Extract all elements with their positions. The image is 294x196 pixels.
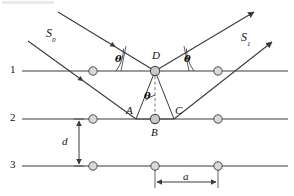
diffracted-ray-upper: [155, 12, 254, 71]
incident-ray-upper: [58, 12, 155, 71]
point-a-label: A: [126, 105, 133, 116]
angle-interior-label: θ: [144, 91, 151, 101]
plane-2-label: 2: [10, 112, 16, 123]
incident-beam-label: S0: [46, 27, 56, 42]
point-d-label: D: [152, 50, 160, 61]
diffracted-beam-label: S1: [241, 31, 251, 46]
point-c-label: C: [175, 105, 182, 116]
plane-3-label: 3: [10, 159, 16, 170]
atomic-spacing-label: a: [183, 171, 189, 182]
incident-beam-subscript: 0: [52, 36, 56, 44]
point-b-label: B: [151, 127, 158, 138]
plane-1-label: 1: [10, 64, 16, 75]
figure-canvas: S0 S1 θ θ θ D A C B 1 2 3 d a: [0, 0, 294, 196]
angle-incident-label: θ: [115, 54, 122, 64]
angle-reflected-label: θ: [184, 54, 191, 64]
dimension-d-arrow: [74, 119, 84, 166]
interplanar-spacing-label: d: [62, 136, 68, 147]
diffracted-beam-subscript: 1: [247, 40, 251, 48]
